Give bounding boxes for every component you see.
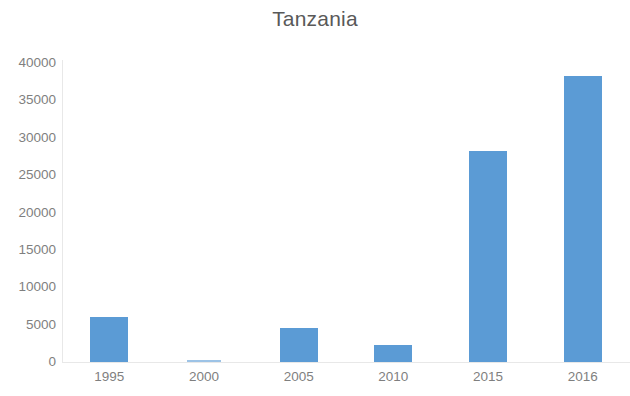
y-axis-tick-label: 10000 xyxy=(0,280,56,294)
x-axis-line xyxy=(62,362,630,363)
x-axis-tick-label: 2015 xyxy=(473,368,503,386)
y-axis-tick-label: 25000 xyxy=(0,168,56,182)
y-axis-tick-label: 5000 xyxy=(0,318,56,332)
x-axis-tick-label: 1995 xyxy=(94,368,124,386)
bar-2005[interactable] xyxy=(280,328,318,362)
bar-2016[interactable] xyxy=(564,76,602,362)
bar-2000[interactable] xyxy=(187,360,221,362)
bar-slot xyxy=(535,60,630,362)
x-axis-tick-label: 2010 xyxy=(378,368,408,386)
plot-area xyxy=(62,60,630,362)
chart-title: Tanzania xyxy=(0,5,630,33)
bar-slot xyxy=(251,60,346,362)
y-axis-tick-label: 15000 xyxy=(0,243,56,257)
x-axis-tick-label: 2016 xyxy=(568,368,598,386)
bar-slot xyxy=(62,60,157,362)
bar-slot xyxy=(157,60,252,362)
x-axis-tick-label: 2000 xyxy=(189,368,219,386)
y-axis-tick-label: 35000 xyxy=(0,93,56,107)
x-axis-tick-label: 2005 xyxy=(284,368,314,386)
bar-chart: Tanzania 4000035000300002500020000150001… xyxy=(0,0,630,396)
bar-1995[interactable] xyxy=(90,317,128,362)
bar-2010[interactable] xyxy=(374,345,412,362)
y-axis-tick-label: 0 xyxy=(0,355,56,369)
y-axis-tick-label: 30000 xyxy=(0,131,56,145)
y-axis-tick-label: 20000 xyxy=(0,206,56,220)
bar-slot xyxy=(346,60,441,362)
y-axis: 4000035000300002500020000150001000050000 xyxy=(0,0,56,396)
x-axis: 199520002005201020152016 xyxy=(62,368,630,390)
y-axis-tick-label: 40000 xyxy=(0,56,56,70)
bar-2015[interactable] xyxy=(469,151,507,362)
bar-slot xyxy=(441,60,536,362)
